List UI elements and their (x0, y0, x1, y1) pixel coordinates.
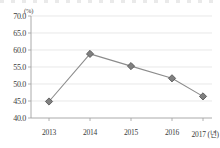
data-line (49, 54, 203, 102)
data-point-2016 (168, 75, 175, 82)
x-tick-label-2017: 2017 (년) (192, 128, 219, 139)
plot-area (0, 0, 220, 148)
x-tick-label-2014: 2014 (83, 128, 97, 137)
x-tick-label-2015: 2015 (124, 128, 138, 137)
line-chart: (%) 70.0 65.0 60.0 55.0 50.0 45.0 40.0 (0, 0, 220, 148)
x-tick-label-2013: 2013 (42, 128, 56, 137)
x-tick-label-2016: 2016 (165, 128, 179, 137)
data-point-2017 (199, 93, 206, 100)
gridlines (31, 16, 212, 101)
data-point-2015 (127, 63, 134, 70)
